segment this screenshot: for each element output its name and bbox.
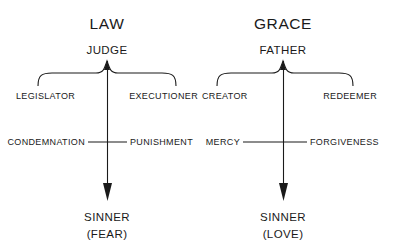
law-brace-apex-icon bbox=[104, 61, 110, 70]
grace-down-arrow-icon bbox=[279, 183, 288, 201]
diagram-panel-grace: GRACE FATHER CREATOR REDEEMER MERCY FORG… bbox=[199, 0, 397, 250]
law-outcome-qualifier: (FEAR) bbox=[87, 229, 128, 241]
diagram-panel-law: LAW JUDGE LEGISLATOR EXECUTIONER CONDEMN… bbox=[0, 0, 198, 250]
law-attribute-left: CONDEMNATION bbox=[7, 138, 85, 147]
law-branch-right: EXECUTIONER bbox=[129, 92, 198, 101]
law-role: JUDGE bbox=[87, 45, 128, 57]
grace-brace bbox=[217, 61, 353, 86]
grace-brace-apex-icon bbox=[280, 61, 286, 70]
grace-title: GRACE bbox=[254, 16, 312, 32]
diagram-canvas: LAW JUDGE LEGISLATOR EXECUTIONER CONDEMN… bbox=[0, 0, 397, 250]
law-down-arrow-icon bbox=[103, 183, 112, 201]
grace-outcome: SINNER bbox=[260, 212, 306, 224]
grace-branch-right: REDEEMER bbox=[323, 92, 377, 101]
law-outcome: SINNER bbox=[84, 212, 130, 224]
law-title: LAW bbox=[90, 16, 125, 32]
grace-attribute-left: MERCY bbox=[206, 138, 240, 147]
grace-outcome-qualifier: (LOVE) bbox=[263, 229, 304, 241]
law-brace bbox=[38, 61, 176, 86]
grace-role: FATHER bbox=[260, 45, 307, 57]
grace-attribute-right: FORGIVENESS bbox=[310, 138, 379, 147]
grace-branch-left: CREATOR bbox=[202, 92, 248, 101]
law-attribute-right: PUNISHMENT bbox=[130, 138, 193, 147]
law-branch-left: LEGISLATOR bbox=[16, 92, 75, 101]
